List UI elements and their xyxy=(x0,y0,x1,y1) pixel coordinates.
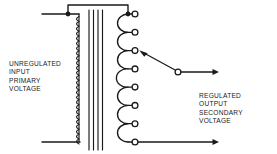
tap-terminal-4[interactable] xyxy=(132,66,138,72)
secondary-coil-windings xyxy=(116,14,128,142)
junction-dot-primary-top xyxy=(66,12,71,17)
wiper-pivot-terminal[interactable] xyxy=(175,69,181,75)
unregulated-input-primary-voltage-label: UNREGULATED INPUT PRIMARY VOLTAGE xyxy=(9,60,61,94)
tap-terminal-7[interactable] xyxy=(132,121,138,127)
secondary-label-line-1: REGULATED xyxy=(199,92,243,100)
tap-terminal-1[interactable] xyxy=(132,11,138,17)
output-top-arrowhead-icon xyxy=(213,69,220,75)
wiper-arrowhead-icon xyxy=(139,50,147,57)
tap-terminal-5[interactable] xyxy=(132,84,138,90)
tap-terminal-2[interactable] xyxy=(132,29,138,35)
transformer-schematic-diagram: UNREGULATED INPUT PRIMARY VOLTAGE REGULA… xyxy=(0,0,277,154)
secondary-label-line-4: VOLTAGE xyxy=(199,117,243,125)
secondary-label-line-2: OUTPUT xyxy=(199,100,243,108)
primary-label-line-4: VOLTAGE xyxy=(9,85,61,93)
output-bottom-arrowhead-icon xyxy=(213,139,220,145)
primary-coil-windings xyxy=(77,17,80,144)
tap-terminal-6[interactable] xyxy=(132,103,138,109)
primary-label-line-2: INPUT xyxy=(9,68,61,76)
junction-dot-secondary-top xyxy=(126,12,131,17)
primary-label-line-3: PRIMARY xyxy=(9,77,61,85)
wiper-arm xyxy=(143,53,176,71)
tap-terminal-3[interactable] xyxy=(132,48,138,54)
regulated-output-secondary-voltage-label: REGULATED OUTPUT SECONDARY VOLTAGE xyxy=(199,92,243,126)
secondary-label-line-3: SECONDARY xyxy=(199,109,243,117)
primary-label-line-1: UNREGULATED xyxy=(9,60,61,68)
tap-terminal-8[interactable] xyxy=(132,139,138,145)
